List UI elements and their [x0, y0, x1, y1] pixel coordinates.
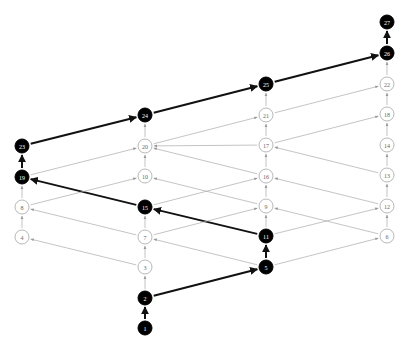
node-label: 19: [19, 175, 25, 181]
node-26: 26: [380, 46, 394, 60]
edge-25-to-26: [275, 55, 379, 82]
diagram-canvas: 1237151020244819235119161721256121314182…: [0, 0, 409, 350]
node-label: 25: [263, 82, 269, 88]
edge-7-to-8: [31, 209, 137, 235]
node-18: 18: [380, 107, 394, 121]
node-13: 13: [380, 168, 394, 182]
edge-3-to-4: [31, 239, 137, 265]
node-27: 27: [380, 15, 394, 29]
node-label: 11: [263, 234, 269, 240]
node-21: 21: [259, 108, 273, 122]
node-label: 1: [144, 326, 147, 332]
edge-24-to-25: [154, 86, 258, 113]
node-2: 2: [138, 291, 152, 305]
node-14: 14: [380, 138, 394, 152]
node-label: 4: [21, 235, 24, 241]
node-label: 20: [142, 144, 148, 150]
edge-20-to-21: [154, 117, 258, 144]
node-label: 23: [19, 144, 25, 150]
node-15: 15: [138, 200, 152, 214]
node-label: 12: [384, 204, 390, 210]
nodes-layer: 1237151020244819235119161721256121314182…: [15, 15, 394, 335]
edge-16-to-20: [154, 148, 258, 174]
node-8: 8: [15, 200, 29, 214]
node-23: 23: [15, 139, 29, 153]
edge-5-to-7: [154, 239, 258, 265]
node-12: 12: [380, 199, 394, 213]
edge-17-to-20: [154, 145, 257, 146]
node-16: 16: [259, 169, 273, 183]
node-label: 6: [386, 234, 389, 240]
node-label: 18: [384, 112, 390, 118]
node-label: 21: [263, 113, 269, 119]
node-label: 5: [265, 265, 268, 271]
node-label: 9: [265, 204, 268, 210]
edge-19-to-20: [31, 148, 137, 175]
edge-21-to-22: [275, 86, 379, 113]
node-label: 10: [142, 174, 148, 180]
node-9: 9: [259, 199, 273, 213]
node-5: 5: [259, 260, 273, 274]
edge-2-to-5: [154, 269, 258, 296]
edge-23-to-24: [31, 117, 137, 144]
node-label: 7: [144, 235, 147, 241]
node-19: 19: [15, 170, 29, 184]
node-22: 22: [380, 77, 394, 91]
edge-17-to-18: [275, 116, 379, 143]
node-label: 17: [263, 143, 269, 149]
node-label: 2: [144, 296, 147, 302]
node-20: 20: [138, 139, 152, 153]
edge-5-to-6: [275, 238, 379, 265]
node-label: 14: [384, 143, 390, 149]
node-17: 17: [259, 138, 273, 152]
node-label: 8: [21, 205, 24, 211]
edge-13-to-17: [275, 147, 379, 173]
node-label: 24: [142, 113, 148, 119]
node-10: 10: [138, 169, 152, 183]
node-label: 22: [384, 82, 390, 88]
node-label: 3: [144, 265, 147, 271]
node-label: 27: [384, 20, 390, 26]
node-label: 16: [263, 174, 269, 180]
node-label: 15: [142, 205, 148, 211]
node-4: 4: [15, 230, 29, 244]
node-3: 3: [138, 260, 152, 274]
node-1: 1: [138, 321, 152, 335]
edges-layer: [22, 31, 387, 319]
lattice-diagram: 1237151020244819235119161721256121314182…: [0, 0, 409, 350]
node-24: 24: [138, 108, 152, 122]
edge-12-to-16: [275, 178, 379, 204]
node-label: 13: [384, 173, 390, 179]
node-label: 26: [384, 51, 390, 57]
node-7: 7: [138, 230, 152, 244]
node-11: 11: [259, 229, 273, 243]
node-25: 25: [259, 77, 273, 91]
node-6: 6: [380, 229, 394, 243]
